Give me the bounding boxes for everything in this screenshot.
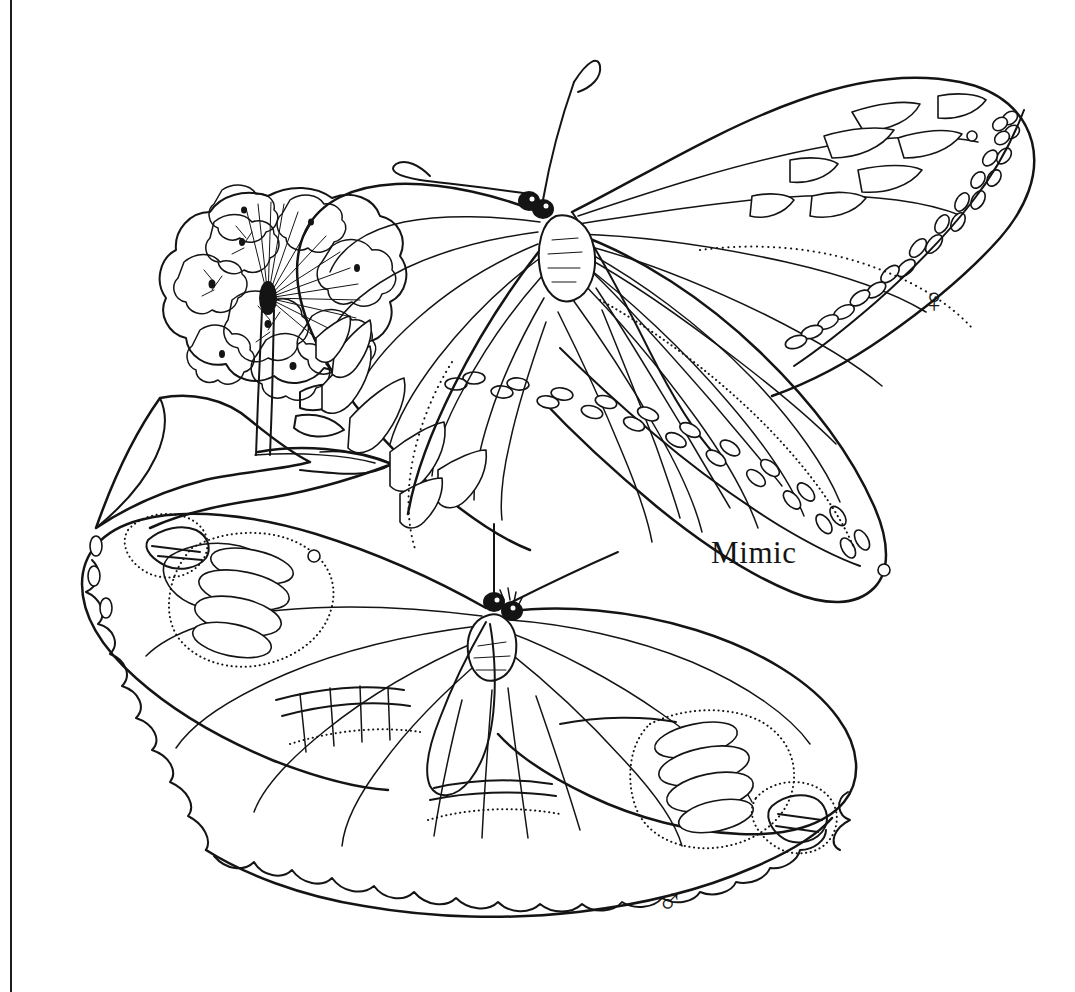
female-butterfly-figure [297,61,1034,602]
female-symbol: ♀ [921,283,947,318]
male-symbol: ♂ [657,884,683,919]
illustration-plate: .ln{fill:none;stroke:#141414;stroke-line… [0,0,1075,992]
butterfly-illustration: .ln{fill:none;stroke:#141414;stroke-line… [0,0,1075,992]
male-butterfly-figure [82,514,856,917]
page-title: Mimic [711,535,797,571]
